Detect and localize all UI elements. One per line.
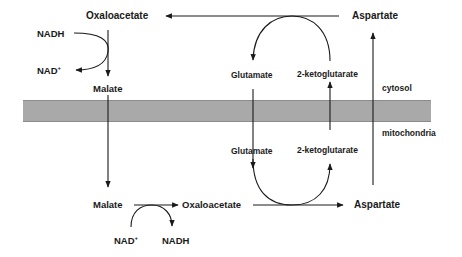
arc-mit-nad-to-nadh [131, 205, 172, 227]
label-mit-ketoglutarate: 2-ketoglutarate [297, 146, 358, 155]
label-mit-glutamate: Glutamate [231, 147, 273, 156]
label-cyt-nadh: NADH [37, 29, 64, 39]
label-cyt-malate: Malate [93, 84, 123, 94]
label-cyt-oxaloacetate: Oxaloacetate [86, 11, 148, 21]
label-compartment-cytosol: cytosol [382, 84, 412, 93]
nad-text: NAD [114, 235, 135, 246]
label-mit-malate: Malate [93, 200, 123, 210]
arc-mit-glutamate-to-ketoglutarate [253, 159, 330, 205]
malate-aspartate-shuttle-diagram: Oxaloacetate Aspartate NADH NAD+ Malate … [0, 0, 462, 257]
label-mit-oxaloacetate: Oxaloacetate [182, 200, 241, 210]
label-mit-nadh: NADH [162, 236, 189, 246]
arc-cyt-ketoglutarate-to-glutamate [253, 16, 330, 61]
label-cyt-nad-plus: NAD+ [37, 66, 61, 76]
label-mit-aspartate: Aspartate [354, 200, 400, 210]
arc-cyt-nadh-to-nad [74, 33, 108, 70]
label-cyt-glutamate: Glutamate [231, 71, 273, 80]
label-cyt-aspartate: Aspartate [352, 11, 398, 21]
nad-superscript: + [135, 235, 139, 241]
label-mit-nad-plus: NAD+ [114, 236, 138, 246]
nad-superscript: + [58, 65, 62, 71]
label-compartment-mitochondria: mitochondria [382, 129, 436, 138]
nad-text: NAD [37, 65, 58, 76]
label-cyt-ketoglutarate: 2-ketoglutarate [297, 70, 358, 79]
